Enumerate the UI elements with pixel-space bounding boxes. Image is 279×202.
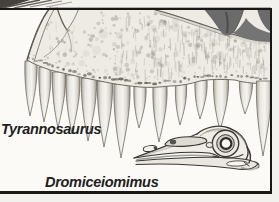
figure-panel: Tyrannosaurus Dromiceiomimus (0, 0, 279, 202)
tyrannosaurus-label: Tyrannosaurus (1, 121, 101, 137)
mandibular-fenestra (226, 161, 247, 167)
skull-comparison-illustration (0, 0, 279, 202)
dromiceiomimus-label: Dromiceiomimus (45, 174, 158, 190)
adjacent-figure-fragment (0, 0, 72, 8)
